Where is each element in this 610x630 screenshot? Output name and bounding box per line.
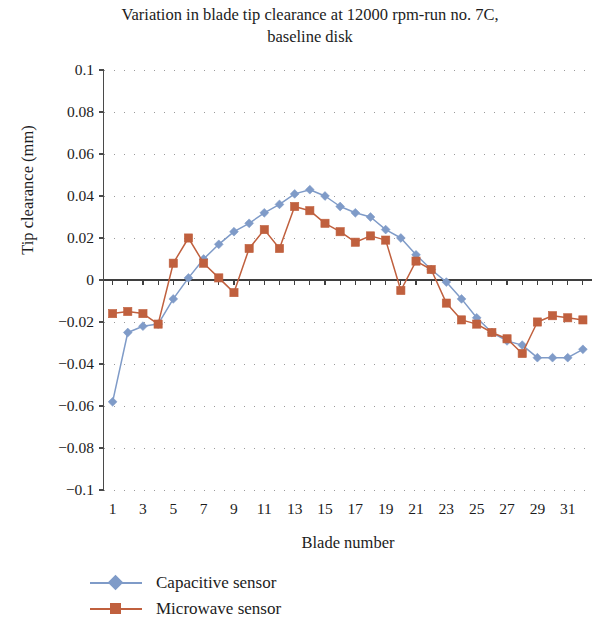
legend-label-capacitive: Capacitive sensor <box>144 573 276 593</box>
legend-item-capacitive: Capacitive sensor <box>88 570 408 596</box>
legend-key-capacitive <box>88 573 144 593</box>
plot-area <box>0 0 610 630</box>
diamond-marker-icon <box>108 575 124 591</box>
legend-label-microwave: Microwave sensor <box>144 599 281 619</box>
square-marker-icon <box>110 603 121 614</box>
chart-figure: Variation in blade tip clearance at 1200… <box>0 0 610 630</box>
legend-key-microwave <box>88 599 144 619</box>
legend-item-microwave: Microwave sensor <box>88 596 408 622</box>
chart-legend: Capacitive sensor Microwave sensor <box>88 570 408 622</box>
